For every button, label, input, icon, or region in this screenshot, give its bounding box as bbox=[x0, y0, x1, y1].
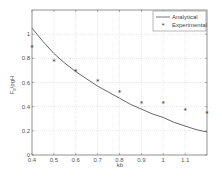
legend-star-icon: * bbox=[162, 22, 165, 29]
svg-text:Fs/ρgH: Fs/ρgH bbox=[9, 76, 17, 95]
experimental-point: * bbox=[162, 100, 166, 108]
legend-label-analytical: Analytical bbox=[172, 14, 198, 20]
legend-label-experimental: Experimental bbox=[172, 22, 207, 28]
x-tick-label: 1 bbox=[162, 157, 166, 163]
y-tick-label: 0.2 bbox=[22, 128, 31, 134]
y-tick-label: 1 bbox=[27, 31, 31, 37]
y-axis-label-rest: /ρgH bbox=[9, 76, 15, 89]
y-tick-label: 0.6 bbox=[22, 80, 31, 86]
y-tick-label: 0.4 bbox=[22, 104, 31, 110]
chart: ********* 0.40.50.60.70.80.911.1 00.20.4… bbox=[0, 0, 222, 178]
experimental-point: * bbox=[52, 58, 56, 66]
x-tick-label: 0.9 bbox=[137, 157, 146, 163]
x-tick-label: 0.7 bbox=[93, 157, 102, 163]
y-tick-label: 0.8 bbox=[22, 55, 31, 61]
legend: Analytical * Experimental bbox=[153, 11, 207, 31]
experimental-point: * bbox=[96, 78, 100, 86]
experimental-point: * bbox=[140, 100, 144, 108]
x-tick-label: 0.6 bbox=[72, 157, 81, 163]
experimental-point: * bbox=[205, 110, 209, 118]
grid-lines bbox=[32, 10, 207, 155]
x-tick-label: 0.5 bbox=[50, 157, 59, 163]
experimental-point: * bbox=[183, 107, 187, 115]
x-axis-label: kb bbox=[117, 162, 124, 168]
x-tick-labels: 0.40.50.60.70.80.911.1 bbox=[28, 157, 190, 163]
y-axis-label: Fs/ρgH bbox=[9, 76, 17, 95]
experimental-point: * bbox=[118, 89, 122, 97]
x-tick-label: 1.1 bbox=[181, 157, 190, 163]
experimental-point: * bbox=[74, 68, 78, 76]
experimental-point: * bbox=[30, 44, 34, 52]
